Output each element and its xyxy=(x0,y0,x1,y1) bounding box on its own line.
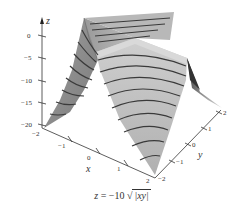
caption-eq: = −10 xyxy=(98,190,127,201)
surface-plot-figure: z 0 −5 −10 −15 −20 −2 −1 0 1 2 x −2 −1 0… xyxy=(0,0,245,212)
z-tick: −5 xyxy=(24,54,32,62)
x-tick: 0 xyxy=(87,154,91,162)
z-axis xyxy=(38,17,46,128)
z-tick: −15 xyxy=(21,99,32,107)
surface-plot: z 0 −5 −10 −15 −20 −2 −1 0 1 2 x −2 −1 0… xyxy=(0,0,245,212)
z-axis-arrow-icon xyxy=(40,17,44,24)
caption-radicand: |xy| xyxy=(132,189,150,201)
z-tick: −20 xyxy=(21,121,32,129)
y-tick: 1 xyxy=(208,125,212,133)
z-tick: −10 xyxy=(21,77,32,85)
surface-front-face xyxy=(96,38,187,175)
x-tick: 2 xyxy=(146,177,150,185)
x-axis-label: x xyxy=(85,163,91,174)
x-tick: 1 xyxy=(117,165,121,173)
surface-right-wing xyxy=(187,58,222,108)
z-axis-label: z xyxy=(45,15,50,26)
x-tick: −2 xyxy=(32,130,40,138)
z-tick: 0 xyxy=(27,32,31,40)
y-tick: 2 xyxy=(223,109,227,117)
y-axis-label: y xyxy=(197,149,203,160)
y-tick: −1 xyxy=(176,158,184,166)
y-tick: −2 xyxy=(158,175,166,183)
y-tick: 0 xyxy=(192,141,196,149)
x-tick: −1 xyxy=(58,142,66,150)
equation-caption: z = −10 √|xy| xyxy=(0,190,245,201)
